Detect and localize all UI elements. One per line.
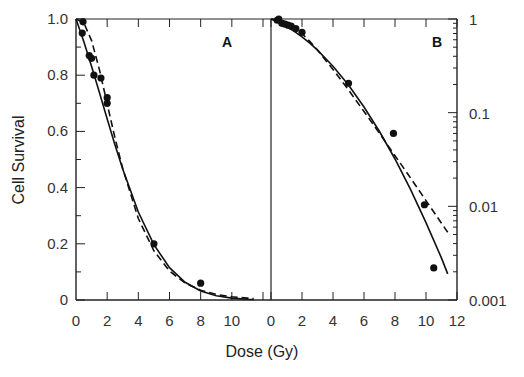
x-axis-title: Dose (Gy)	[226, 343, 299, 360]
x-tick-label: 4	[134, 312, 142, 329]
data-point	[390, 130, 397, 137]
data-point	[88, 55, 95, 62]
data-point	[430, 264, 437, 271]
y-tick-label: 0.6	[47, 122, 68, 139]
x-tick-label: 12	[449, 312, 466, 329]
data-point	[421, 201, 428, 208]
y-axis-title: Cell Survival	[10, 116, 27, 205]
data-point	[97, 74, 104, 81]
data-point	[298, 29, 305, 36]
solid-fit-curve	[76, 19, 254, 300]
x-tick-label: 6	[165, 312, 173, 329]
y-tick-label: 0.8	[47, 66, 68, 83]
x-tick-label: 10	[223, 312, 240, 329]
y-tick-label: 1.0	[47, 10, 68, 27]
y-tick-label-right: 0.01	[469, 198, 498, 215]
y-tick-label-right: 1	[469, 11, 477, 28]
panel-letter: A	[222, 34, 232, 50]
panel-a: 024681000.20.40.60.81.0A	[47, 10, 263, 329]
x-tick-label: 4	[329, 312, 337, 329]
cell-survival-chart: 024681000.20.40.60.81.0A 0246810120.0010…	[0, 0, 524, 377]
y-tick-label: 0.4	[47, 179, 68, 196]
data-point	[79, 29, 86, 36]
x-tick-label: 0	[72, 312, 80, 329]
dashed-fit-curve	[76, 19, 254, 299]
data-point	[90, 72, 97, 79]
panel-b: 0246810120.0010.010.11B	[263, 11, 507, 329]
y-tick-label-right: 0.001	[469, 292, 507, 309]
dashed-fit-curve	[271, 19, 448, 232]
x-tick-label: 0	[267, 312, 275, 329]
y-tick-label: 0	[60, 291, 68, 308]
x-tick-label: 2	[103, 312, 111, 329]
x-tick-label: 6	[360, 312, 368, 329]
data-point	[150, 240, 157, 247]
x-tick-label: 10	[418, 312, 435, 329]
y-tick-label-right: 0.1	[469, 105, 490, 122]
x-tick-label: 2	[298, 312, 306, 329]
y-tick-label: 0.2	[47, 235, 68, 252]
data-point	[104, 100, 111, 107]
data-point	[79, 18, 86, 25]
x-tick-label: 8	[391, 312, 399, 329]
x-tick-label: 8	[196, 312, 204, 329]
data-point	[345, 80, 352, 87]
data-point	[197, 280, 204, 287]
panel-letter: B	[432, 34, 442, 50]
solid-fit-curve	[271, 19, 448, 274]
data-point	[292, 25, 299, 32]
